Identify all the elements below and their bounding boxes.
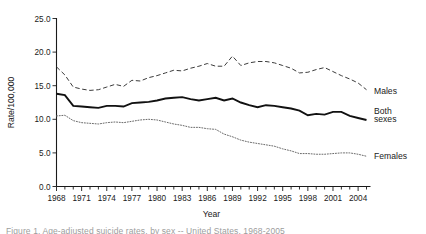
- x-tick-label: 2001: [324, 194, 343, 203]
- y-tick-label: 10.0: [35, 115, 51, 124]
- series-line-females: [57, 115, 367, 156]
- series-label-females: Females: [374, 151, 407, 161]
- y-tick-label: 20.0: [35, 48, 51, 57]
- y-tick-label: 15.0: [35, 82, 51, 91]
- suicide-rate-line-chart: 0.05.010.015.020.025.0196819711974197719…: [0, 0, 426, 234]
- x-axis-title: Year: [203, 209, 221, 219]
- y-tick-label: 0.0: [39, 183, 51, 192]
- figure-caption: Figure 1. Age-adjusted suicide rates, by…: [6, 227, 420, 234]
- x-tick-label: 1998: [299, 194, 318, 203]
- x-tick-label: 1989: [223, 194, 242, 203]
- series-label-sexes: sexes: [374, 114, 396, 124]
- x-tick-label: 1983: [173, 194, 192, 203]
- series-label-males: Males: [374, 86, 397, 96]
- y-tick-label: 5.0: [39, 149, 51, 158]
- x-tick-label: 1977: [123, 194, 142, 203]
- series-line-males: [57, 56, 367, 90]
- figure-container: 0.05.010.015.020.025.0196819711974197719…: [0, 0, 426, 234]
- x-tick-label: 1971: [73, 194, 92, 203]
- x-tick-label: 2004: [349, 194, 368, 203]
- y-tick-label: 25.0: [35, 15, 51, 24]
- x-tick-label: 1974: [98, 194, 117, 203]
- figure-caption-strip: Figure 1. Age-adjusted suicide rates, by…: [6, 227, 420, 234]
- series-line-both-sexes: [57, 94, 367, 120]
- y-axis-title: Rate/100,000: [6, 76, 16, 128]
- x-tick-label: 1986: [198, 194, 217, 203]
- x-tick-label: 1968: [47, 194, 66, 203]
- x-tick-label: 1992: [248, 194, 267, 203]
- x-tick-label: 1995: [274, 194, 293, 203]
- x-tick-label: 1980: [148, 194, 167, 203]
